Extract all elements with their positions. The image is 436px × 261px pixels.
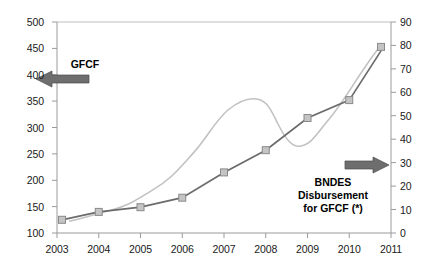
bndes-arrow-icon (345, 157, 389, 173)
chart-plot-area (0, 0, 436, 261)
y-right-tick-30: 30 (400, 157, 424, 169)
bndes-annotation-line1: BNDES (280, 176, 386, 188)
y-right-tick-0: 0 (400, 227, 424, 239)
x-tick-2010: 2010 (327, 243, 371, 255)
x-tick-2007: 2007 (202, 243, 246, 255)
bndes-annotation-line2: Disbursement (280, 189, 386, 201)
y-right-tick-50: 50 (400, 110, 424, 122)
chart-container: 500 450 400 350 300 250 200 150 100 90 8… (0, 0, 436, 261)
x-axis-ticks (57, 233, 391, 238)
y-left-tick-250: 250 (14, 148, 44, 160)
y-left-tick-100: 100 (14, 227, 44, 239)
gfcf-annotation-label: GFCF (55, 58, 115, 70)
y-left-tick-150: 150 (14, 201, 44, 213)
x-tick-2006: 2006 (160, 243, 204, 255)
x-tick-2005: 2005 (119, 243, 163, 255)
left-axis-ticks (52, 22, 57, 233)
y-left-tick-300: 300 (14, 122, 44, 134)
y-right-tick-70: 70 (400, 63, 424, 75)
y-right-tick-20: 20 (400, 180, 424, 192)
y-left-tick-200: 200 (14, 174, 44, 186)
y-right-tick-40: 40 (400, 133, 424, 145)
y-left-tick-350: 350 (14, 95, 44, 107)
x-tick-2003: 2003 (35, 243, 79, 255)
x-tick-2009: 2009 (286, 243, 330, 255)
y-left-tick-400: 400 (14, 69, 44, 81)
x-tick-2011: 2011 (369, 243, 413, 255)
y-left-tick-450: 450 (14, 42, 44, 54)
y-right-tick-10: 10 (400, 204, 424, 216)
bndes-annotation-line3: for GFCF (*) (280, 202, 386, 214)
x-tick-2004: 2004 (77, 243, 121, 255)
y-right-tick-90: 90 (400, 16, 424, 28)
y-left-tick-500: 500 (14, 16, 44, 28)
y-right-tick-80: 80 (400, 39, 424, 51)
x-tick-2008: 2008 (244, 243, 288, 255)
right-axis-ticks (391, 22, 396, 233)
y-right-tick-60: 60 (400, 86, 424, 98)
